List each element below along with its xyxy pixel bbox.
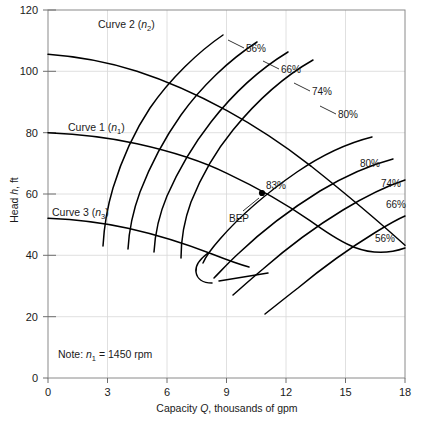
x-axis-title: Capacity Q, thousands of gpm (156, 402, 298, 414)
y-tick-label-0: 0 (32, 372, 38, 384)
x-tick-label-3: 3 (104, 386, 110, 398)
y-tick-label-20: 20 (26, 311, 38, 323)
bep-marker-dot (259, 190, 265, 196)
efficiency-label-top-80: 80% (338, 109, 358, 120)
efficiency-label-right-66: 66% (386, 199, 406, 210)
bep-efficiency-label: 83% (266, 180, 286, 191)
y-tick-label-40: 40 (26, 249, 38, 261)
chart-container: 0 3 6 9 12 15 18 0 20 40 60 80 100 120 C… (0, 0, 425, 425)
x-tick-label-6: 6 (164, 386, 170, 398)
x-tick-label-12: 12 (280, 386, 292, 398)
y-tick-label-100: 100 (20, 65, 38, 77)
y-axis-title: Head h, ft (8, 177, 20, 223)
y-tick-label-120: 120 (20, 4, 38, 16)
x-tick-label-9: 9 (223, 386, 229, 398)
efficiency-label-top-66: 66% (281, 64, 301, 75)
x-tick-label-15: 15 (339, 386, 351, 398)
y-tick-label-60: 60 (26, 188, 38, 200)
x-tick-label-0: 0 (45, 386, 51, 398)
efficiency-label-right-56: 56% (375, 233, 395, 244)
efficiency-label-top-74: 74% (312, 86, 332, 97)
efficiency-label-right-80: 80% (360, 158, 380, 169)
x-tick-label-18: 18 (399, 386, 411, 398)
efficiency-label-right-74: 74% (381, 178, 401, 189)
bep-label: BEP (229, 213, 249, 224)
efficiency-label-top-56: 56% (246, 43, 266, 54)
y-tick-label-80: 80 (26, 127, 38, 139)
pump-performance-chart: 0 3 6 9 12 15 18 0 20 40 60 80 100 120 C… (0, 0, 425, 425)
